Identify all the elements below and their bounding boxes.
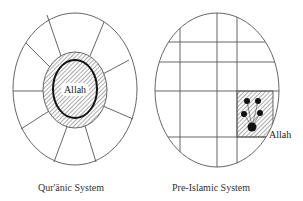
allah-side-label: Allah [269,129,291,140]
diagram-figure: Allah Allah [0,0,303,201]
quranic-system-diagram: Allah [13,13,137,165]
deity-dot [257,110,263,116]
pre-islamic-system-caption: Pre-Islamic System [172,182,250,193]
deity-dot [241,111,247,117]
deity-dot [255,98,261,104]
quranic-system-caption: Qur'ānic System [38,182,104,193]
deity-dot [244,98,250,104]
pre-islamic-system-diagram: Allah [153,11,291,169]
allah-center-label: Allah [64,84,86,95]
deity-dot [248,123,257,132]
